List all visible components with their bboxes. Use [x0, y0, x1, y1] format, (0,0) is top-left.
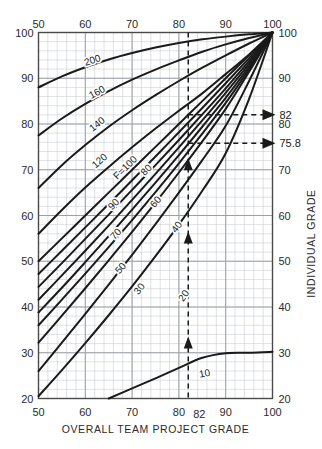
xtick-top-60: 60: [79, 18, 91, 30]
xtick-bottom-90: 90: [220, 406, 232, 418]
ytick-left-80: 80: [21, 118, 33, 130]
xtick-bottom-70: 70: [126, 406, 138, 418]
ytick-left-40: 40: [21, 301, 33, 313]
ytick-left-20: 20: [21, 393, 33, 405]
xtick-bottom-80: 80: [173, 406, 185, 418]
annotation-value-1: 75.8: [280, 137, 301, 149]
xtick-top-50: 50: [32, 18, 44, 30]
ytick-right-80: 80: [279, 118, 291, 130]
xtick-top-80: 80: [173, 18, 185, 30]
xtick-annotation-82: 82: [193, 408, 205, 420]
ytick-right-20: 20: [279, 393, 291, 405]
xtick-bottom-50: 50: [32, 406, 44, 418]
y-axis-right-title: INDIVIDUAL GRADE: [305, 189, 317, 297]
ytick-right-70: 70: [279, 164, 291, 176]
ytick-right-90: 90: [279, 72, 291, 84]
ytick-left-90: 90: [21, 72, 33, 84]
ytick-left-100: 100: [15, 27, 33, 39]
xtick-top-90: 90: [220, 18, 232, 30]
ytick-left-30: 30: [21, 347, 33, 359]
ytick-left-70: 70: [21, 164, 33, 176]
ytick-left-60: 60: [21, 210, 33, 222]
ytick-right-50: 50: [279, 255, 291, 267]
chart-canvas: 8275.8 200200160160140140120120F=100F=10…: [0, 0, 322, 449]
ytick-left-50: 50: [21, 255, 33, 267]
x-axis-title: OVERALL TEAM PROJECT GRADE: [62, 423, 250, 435]
ytick-right-40: 40: [279, 301, 291, 313]
ytick-right-60: 60: [279, 210, 291, 222]
ytick-right-30: 30: [279, 347, 291, 359]
nomograph-chart: 8275.8 200200160160140140120120F=100F=10…: [0, 0, 322, 449]
xtick-bottom-100: 100: [263, 406, 281, 418]
xtick-top-70: 70: [126, 18, 138, 30]
xtick-bottom-60: 60: [79, 406, 91, 418]
ytick-right-100: 100: [279, 27, 297, 39]
